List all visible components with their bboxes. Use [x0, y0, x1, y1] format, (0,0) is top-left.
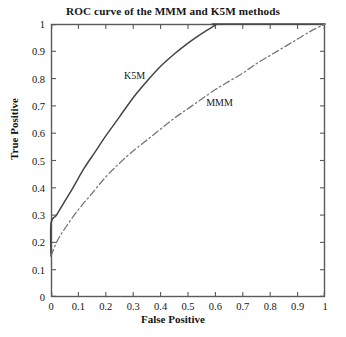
x-tick-label: 0.1	[72, 301, 85, 312]
series-label-mmm: MMM	[206, 96, 233, 107]
x-tick-label: 0.4	[154, 301, 167, 312]
x-tick-marks	[52, 24, 325, 297]
x-axis-title: False Positive	[0, 313, 346, 325]
series-label-k5m: K5M	[124, 69, 145, 80]
y-tick-label: 0.4	[17, 182, 45, 193]
x-tick-label: 0.8	[264, 301, 277, 312]
x-tick-label: 0.9	[291, 301, 304, 312]
y-tick-label: 0.2	[17, 237, 45, 248]
plot-frame-rect	[52, 25, 325, 297]
series-line-mmm	[51, 24, 325, 256]
series-lines	[51, 24, 325, 256]
x-tick-label: 0.5	[181, 301, 194, 312]
x-tick-label: 0.6	[209, 301, 222, 312]
chart-title: ROC curve of the MMM and K5M methods	[0, 5, 346, 17]
y-axis-title: True Positive	[8, 69, 20, 189]
x-tick-label: 0.2	[99, 301, 112, 312]
y-tick-label: 0.7	[17, 100, 45, 111]
y-tick-label: 0.6	[17, 128, 45, 139]
y-tick-label: 0.9	[17, 46, 45, 57]
x-tick-label: 0	[48, 301, 53, 312]
plot-area: 00.10.20.30.40.50.60.70.80.91 00.10.20.3…	[51, 24, 325, 297]
y-tick-label: 0	[17, 292, 45, 303]
plot-canvas	[51, 24, 325, 297]
roc-chart-figure: ROC curve of the MMM and K5M methods 00.…	[0, 0, 346, 337]
y-tick-label: 1	[17, 19, 45, 30]
y-tick-marks	[51, 25, 325, 297]
y-tick-label: 0.8	[17, 73, 45, 84]
y-tick-label: 0.5	[17, 155, 45, 166]
x-tick-label: 0.3	[127, 301, 140, 312]
y-tick-label: 0.1	[17, 264, 45, 275]
y-tick-label: 0.3	[17, 210, 45, 221]
x-tick-label: 1	[322, 301, 327, 312]
series-line-k5m	[51, 24, 325, 256]
x-tick-label: 0.7	[236, 301, 249, 312]
plot-frame	[52, 25, 325, 297]
